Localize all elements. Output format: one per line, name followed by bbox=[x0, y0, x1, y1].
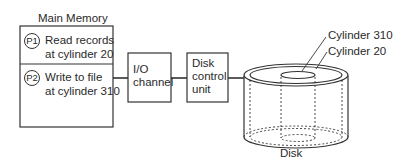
process-p1-badge: P1 bbox=[24, 33, 40, 49]
disk-control-line1: Disk bbox=[192, 57, 214, 70]
disk-control-line2: control bbox=[192, 70, 227, 83]
cylinder-20-label: Cylinder 20 bbox=[328, 45, 386, 58]
process-p2-line2: at cylinder 310 bbox=[45, 85, 120, 98]
io-channel-line2: channel bbox=[133, 76, 173, 89]
io-channel-line1: I/O bbox=[133, 63, 148, 76]
process-p1-line2: at cylinder 20 bbox=[45, 48, 113, 61]
process-p2-badge: P2 bbox=[24, 70, 40, 86]
disk-control-line3: unit bbox=[192, 83, 211, 96]
cylinder-310-label: Cylinder 310 bbox=[328, 29, 393, 42]
disk-label: Disk bbox=[280, 147, 302, 160]
process-p1-line1: Read records bbox=[45, 34, 114, 47]
main-memory-title: Main Memory bbox=[38, 12, 108, 25]
process-p2-line1: Write to file bbox=[45, 71, 102, 84]
